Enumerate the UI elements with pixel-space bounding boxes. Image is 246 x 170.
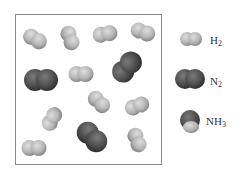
legend-label-nh3: NH3 [206,115,226,131]
legend-nh3-icon [180,110,200,133]
legend-h2-icon [180,32,202,46]
n2-molecule [24,69,58,91]
h2-molecule [85,88,114,117]
legend-label-h2: H2 [210,34,222,50]
h2-molecule [123,94,152,118]
n2-molecule [108,47,147,87]
h2-molecule [20,26,50,52]
h2-molecule [125,126,149,155]
n2-molecule [72,117,112,157]
h2-molecule [91,24,118,44]
h2-molecule [39,104,65,134]
h2-molecule [22,140,47,156]
h2-molecule [69,66,94,82]
legend-label-n2: N2 [210,75,222,91]
legend-n2-icon [175,69,205,89]
h2-molecule [58,24,82,53]
h2-molecule [129,20,158,44]
